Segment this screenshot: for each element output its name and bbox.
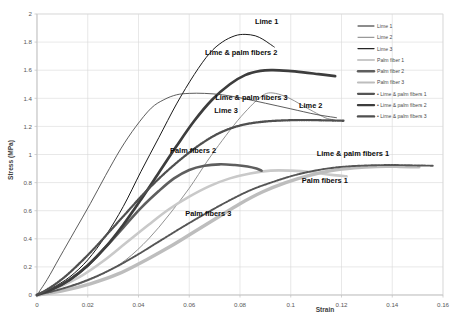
x-tick-label: 0.12 [335,301,348,308]
stress-strain-chart: 00.20.40.60.811.21.41.61.82 00.020.040.0… [0,0,467,333]
x-tick-label: 0 [35,301,39,308]
series-label-1: Lime 1 [255,17,278,26]
series-label-9: Lime & palm fibers 3 [215,93,287,102]
x-axis-title: Strain [316,306,335,313]
y-tick-label: 1 [29,151,33,158]
legend-label: • Lime & palm fibers 3 [377,113,427,119]
y-tick-label: 1.8 [23,38,32,45]
chart-canvas: 00.20.40.60.811.21.41.61.82 00.020.040.0… [0,0,467,333]
x-tick-label: 0.02 [82,301,95,308]
y-tick-label: 1.2 [23,123,32,130]
x-tick-label: 0.14 [386,301,399,308]
x-tick-label: 0.08 [234,301,247,308]
x-tick-label: 0.06 [183,301,196,308]
legend-label: Palm fiber 1 [377,57,404,63]
x-tick-label: 0.04 [132,301,145,308]
legend-label: Palm fiber 3 [377,79,404,85]
y-axis-title: Stress (MPa) [7,140,15,180]
y-tick-label: 0.4 [23,235,32,242]
series-label-2: Lime 2 [299,101,322,110]
x-tick-label: 0.16 [437,301,450,308]
legend-label: Palm fiber 2 [377,68,404,74]
y-tick-label: 1.6 [23,66,32,73]
series-label-4: Palm fibers 1 [302,176,348,185]
series-label-8: Lime & palm fibers 2 [205,48,277,57]
series-label-5: Palm fibers 2 [170,146,216,155]
legend-label: • Lime & palm fibers 1 [377,91,427,97]
y-tick-label: 0 [29,291,33,298]
y-tick-label: 0.8 [23,179,32,186]
y-tick-label: 1.4 [23,95,32,102]
series-label-3: Lime 3 [214,106,237,115]
y-tick-label: 2 [29,10,33,17]
y-tick-label: 0.6 [23,207,32,214]
series-label-7: Lime & palm fibers 1 [317,149,389,158]
y-tick-label: 0.2 [23,263,32,270]
legend-label: Lime 3 [377,46,392,52]
x-tick-label: 0.1 [286,301,295,308]
legend-label: Lime 1 [377,23,392,29]
series-label-6: Palm fibers 3 [185,209,231,218]
legend-label: Lime 2 [377,34,392,40]
legend-label: • Lime & palm fibers 2 [377,102,427,108]
